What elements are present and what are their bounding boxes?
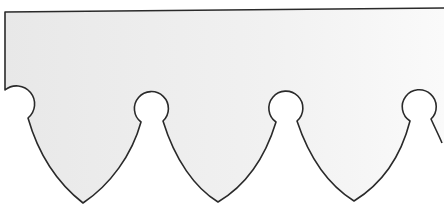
border-outline [5, 8, 444, 203]
diagram-canvas [0, 0, 445, 217]
scalloped-border-shape [0, 0, 445, 217]
